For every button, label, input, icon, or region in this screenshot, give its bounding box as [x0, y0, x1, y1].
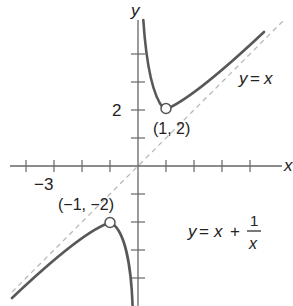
svg-text:1: 1: [250, 212, 258, 229]
svg-text:x: x: [263, 69, 273, 88]
x-tick-label-neg3: −3: [34, 175, 53, 194]
x-axis-label: x: [283, 156, 293, 175]
graph: y x 2 −3 (1, 2) (−1, −2) y = x y = x + 1…: [0, 0, 293, 306]
svg-text:+: +: [230, 222, 240, 241]
curve-left-branch: [12, 224, 133, 306]
svg-text:x: x: [248, 235, 258, 252]
svg-text:y: y: [187, 222, 198, 241]
local-min-label: (1, 2): [153, 120, 190, 137]
curve-equation-label: y = x + 1 x: [187, 212, 261, 252]
y-axis-label: y: [130, 1, 141, 20]
local-max-marker: [105, 218, 115, 228]
svg-text:x: x: [213, 222, 223, 241]
local-min-marker: [161, 104, 171, 114]
curve-right-branch: [143, 20, 264, 109]
y-tick-label-2: 2: [112, 101, 121, 120]
asymptote-equation-label: y = x: [238, 69, 273, 88]
local-max-label: (−1, −2): [58, 196, 114, 213]
svg-text:y: y: [238, 69, 249, 88]
svg-text:=: =: [199, 222, 209, 241]
svg-text:=: =: [250, 69, 260, 88]
